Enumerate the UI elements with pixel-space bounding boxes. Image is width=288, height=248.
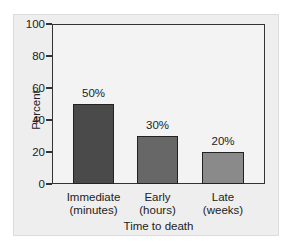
y-tick-mark (46, 119, 52, 121)
y-tick-label: 100 (13, 18, 45, 30)
bar-value-label: 20% (193, 135, 253, 147)
bar-value-label: 30% (128, 119, 188, 131)
y-tick-mark (46, 55, 52, 57)
y-tick-mark (46, 23, 52, 25)
y-axis-label: Percent (30, 80, 42, 140)
y-tick-label: 0 (13, 178, 45, 190)
y-tick-mark (46, 87, 52, 89)
bar (137, 136, 178, 184)
y-tick-mark (46, 183, 52, 185)
bar (202, 152, 244, 184)
y-tick-label: 20 (13, 146, 45, 158)
bar-value-label: 50% (64, 87, 124, 99)
bar (73, 104, 114, 184)
y-tick-mark (46, 151, 52, 153)
y-tick-label: 80 (13, 50, 45, 62)
x-category-sublabel: (weeks) (183, 203, 263, 217)
x-axis-label: Time to death (52, 220, 265, 232)
x-category-label: Late (183, 190, 263, 204)
